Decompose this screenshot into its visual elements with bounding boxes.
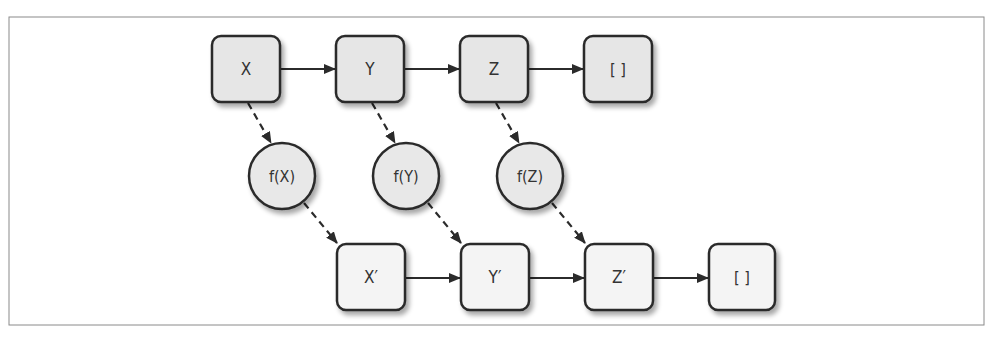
node-f-z: f(Z)	[497, 143, 563, 209]
map-diagram: X Y Z [ ] f(X) f(Y) f(Z)	[0, 0, 993, 362]
node-z: Z	[460, 36, 528, 102]
node-f-y: f(Y)	[373, 143, 439, 209]
node-y-prime: Y′	[461, 244, 529, 310]
node-empty-list: [ ]	[584, 36, 652, 102]
node-label: Y	[364, 59, 375, 79]
function-label: f(Z)	[517, 167, 543, 186]
map-apply-edges	[248, 103, 519, 143]
node-empty-list-output: [ ]	[709, 244, 775, 310]
node-label: Y′	[488, 267, 502, 287]
function-nodes: f(X) f(Y) f(Z)	[249, 143, 563, 209]
node-label: X	[241, 59, 251, 79]
node-label: [ ]	[610, 60, 626, 79]
node-y: Y	[336, 36, 404, 102]
function-label: f(X)	[269, 167, 295, 186]
node-f-x: f(X)	[249, 143, 315, 209]
node-x-prime: X′	[337, 244, 405, 310]
map-result-edges	[304, 203, 585, 243]
node-label: Z	[489, 59, 499, 79]
function-label: f(Y)	[393, 167, 418, 186]
node-label: Z′	[612, 267, 626, 287]
node-x: X	[212, 36, 280, 102]
node-z-prime: Z′	[585, 244, 653, 310]
node-label: X′	[364, 267, 378, 287]
node-label: [ ]	[734, 268, 750, 287]
